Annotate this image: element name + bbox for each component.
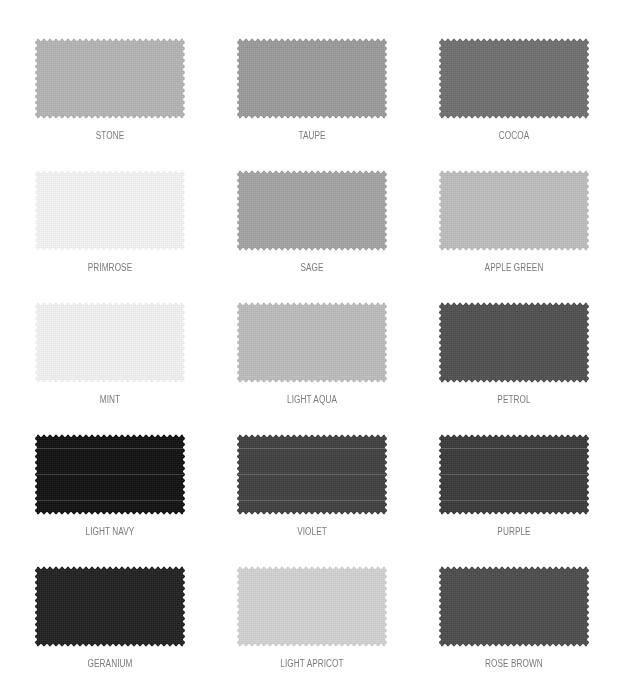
fabric-streak bbox=[238, 500, 386, 501]
fabric-swatch bbox=[236, 38, 388, 119]
swatch-card-geranium[interactable]: GERANIUM bbox=[34, 566, 186, 693]
swatch-card-light-navy[interactable]: LIGHT NAVY bbox=[34, 434, 186, 566]
swatch-label: VIOLET bbox=[250, 526, 375, 538]
swatch-label: LIGHT APRICOT bbox=[250, 658, 375, 670]
swatch-card-taupe[interactable]: TAUPE bbox=[236, 38, 388, 170]
fabric-swatch bbox=[34, 170, 186, 251]
fabric-swatch bbox=[438, 38, 590, 119]
fabric-swatch bbox=[236, 566, 388, 647]
fabric-swatch bbox=[438, 566, 590, 647]
swatch-label: PRIMROSE bbox=[48, 262, 173, 274]
swatch-card-petrol[interactable]: PETROL bbox=[438, 302, 590, 434]
fabric-swatch bbox=[438, 302, 590, 383]
swatch-card-sage[interactable]: SAGE bbox=[236, 170, 388, 302]
swatch-card-rose-brown[interactable]: ROSE BROWN bbox=[438, 566, 590, 693]
swatch-label: ROSE BROWN bbox=[452, 658, 577, 670]
fabric-streak bbox=[36, 474, 184, 475]
fabric-swatch bbox=[34, 38, 186, 119]
swatch-grid: STONE TAUPE COCOA PRIMROSE SAGE APPLE GR… bbox=[34, 38, 590, 693]
fabric-streak bbox=[440, 474, 588, 475]
fabric-swatch bbox=[236, 302, 388, 383]
swatch-label: TAUPE bbox=[250, 130, 375, 142]
fabric-swatch bbox=[236, 170, 388, 251]
swatch-label: SAGE bbox=[250, 262, 375, 274]
fabric-swatch bbox=[438, 434, 590, 515]
swatch-card-mint[interactable]: MINT bbox=[34, 302, 186, 434]
fabric-swatch bbox=[34, 434, 186, 515]
swatch-label: APPLE GREEN bbox=[452, 262, 577, 274]
swatch-card-light-aqua[interactable]: LIGHT AQUA bbox=[236, 302, 388, 434]
swatch-label: LIGHT NAVY bbox=[48, 526, 173, 538]
swatch-label: GERANIUM bbox=[48, 658, 173, 670]
swatch-card-purple[interactable]: PURPLE bbox=[438, 434, 590, 566]
swatch-card-cocoa[interactable]: COCOA bbox=[438, 38, 590, 170]
swatch-card-stone[interactable]: STONE bbox=[34, 38, 186, 170]
swatch-label: PURPLE bbox=[452, 526, 577, 538]
swatch-card-primrose[interactable]: PRIMROSE bbox=[34, 170, 186, 302]
swatch-label: MINT bbox=[48, 394, 173, 406]
fabric-streak bbox=[238, 448, 386, 449]
fabric-streak bbox=[440, 448, 588, 449]
fabric-streak bbox=[36, 500, 184, 501]
fabric-streak bbox=[238, 474, 386, 475]
fabric-swatch bbox=[34, 566, 186, 647]
swatch-card-light-apricot[interactable]: LIGHT APRICOT bbox=[236, 566, 388, 693]
fabric-streak bbox=[440, 500, 588, 501]
swatch-card-apple-green[interactable]: APPLE GREEN bbox=[438, 170, 590, 302]
fabric-swatch bbox=[236, 434, 388, 515]
swatch-label: LIGHT AQUA bbox=[250, 394, 375, 406]
fabric-swatch bbox=[34, 302, 186, 383]
swatch-label: PETROL bbox=[452, 394, 577, 406]
swatch-label: COCOA bbox=[452, 130, 577, 142]
swatch-card-violet[interactable]: VIOLET bbox=[236, 434, 388, 566]
fabric-swatch bbox=[438, 170, 590, 251]
fabric-streak bbox=[36, 448, 184, 449]
swatch-label: STONE bbox=[48, 130, 173, 142]
